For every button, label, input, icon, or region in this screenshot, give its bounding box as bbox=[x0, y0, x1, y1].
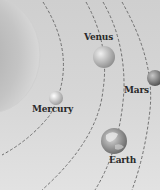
label-mercury: Mercury bbox=[32, 104, 73, 114]
planet-earth bbox=[101, 128, 127, 154]
label-mars: Mars bbox=[124, 85, 149, 95]
planet-mercury bbox=[49, 91, 63, 105]
sun bbox=[0, 0, 40, 113]
planet-venus bbox=[93, 46, 115, 68]
label-venus: Venus bbox=[84, 32, 113, 42]
label-earth: Earth bbox=[109, 155, 136, 165]
solar-system-diagram: Venus Mars Mercury Earth bbox=[0, 0, 160, 190]
